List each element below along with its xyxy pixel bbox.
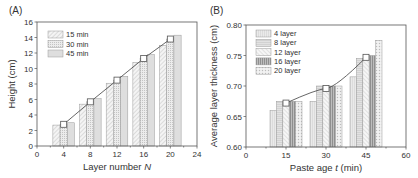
bar	[276, 101, 282, 147]
legend-swatch	[48, 50, 63, 57]
legend-label: 20 layer	[274, 66, 301, 75]
bar	[350, 77, 356, 147]
bar	[140, 58, 147, 146]
x-tick-label: 4	[61, 150, 66, 159]
bar	[270, 110, 276, 147]
y-tick-label: 10	[24, 65, 33, 74]
line-marker	[363, 54, 369, 60]
x-tick-label: 8	[88, 150, 93, 159]
legend-label: 4 layer	[274, 29, 297, 38]
bar	[336, 86, 342, 147]
line-marker	[87, 99, 93, 105]
y-tick-label: 12	[24, 49, 33, 58]
bar	[67, 123, 74, 146]
x-tick-label: 15	[282, 151, 291, 160]
bar	[106, 83, 113, 146]
bar	[133, 62, 140, 146]
y-tick-label: 0.65	[226, 113, 242, 122]
y-tick-label: 2	[29, 127, 34, 136]
legend-label: 15 min	[66, 30, 89, 39]
y-tick-label: 0.80	[226, 21, 242, 30]
legend-swatch	[256, 39, 271, 46]
bar	[316, 86, 322, 147]
y-tick-label: 8	[29, 80, 34, 89]
bar	[174, 35, 181, 146]
bar	[160, 45, 167, 146]
bar	[329, 86, 335, 147]
x-tick-label: 45	[362, 151, 371, 160]
bar	[53, 125, 60, 146]
bar	[310, 101, 316, 147]
line-marker	[114, 77, 120, 83]
bar	[363, 59, 369, 147]
y-tick-label: 0.70	[226, 82, 242, 91]
legend-swatch	[256, 30, 271, 37]
legend-swatch	[256, 49, 271, 56]
bar	[356, 59, 362, 147]
y-tick-label: 0	[29, 142, 34, 151]
y-axis-label: Average layer thickness (cm)	[208, 25, 219, 147]
bar	[113, 80, 120, 146]
y-axis-label: Height (cm)	[6, 59, 17, 108]
legend-swatch	[256, 58, 271, 65]
panel-label: (A)	[9, 5, 22, 16]
chart-a: 048121620240246810121416Layer number NHe…	[6, 5, 202, 172]
bar	[87, 102, 94, 146]
legend-label: 30 min	[66, 40, 89, 49]
bar	[121, 76, 128, 146]
x-tick-label: 30	[322, 151, 331, 160]
legend-label: 12 layer	[274, 48, 301, 57]
y-tick-label: 4	[29, 111, 34, 120]
bar	[289, 101, 295, 147]
x-tick-label: 24	[193, 150, 202, 159]
line-marker	[141, 55, 147, 61]
legend-label: 45 min	[66, 49, 89, 58]
y-tick-label: 0.75	[226, 52, 242, 61]
legend-swatch	[48, 31, 63, 38]
x-tick-label: 0	[244, 151, 249, 160]
bar	[323, 86, 329, 147]
bar	[94, 99, 101, 146]
line-marker	[167, 36, 173, 42]
bar	[296, 101, 302, 147]
panel-label: (B)	[210, 5, 223, 16]
bar	[369, 56, 375, 148]
legend-swatch	[48, 41, 63, 48]
bar	[147, 55, 154, 146]
bar	[167, 39, 174, 146]
legend-label: 16 layer	[274, 57, 301, 66]
figure: 048121620240246810121416Layer number NHe…	[0, 0, 418, 178]
x-tick-label: 20	[166, 150, 175, 159]
chart-b: 0153045600.600.650.700.750.80Paste age t…	[208, 5, 411, 173]
line-marker	[323, 85, 329, 91]
bar	[283, 101, 289, 147]
line-marker	[61, 121, 67, 127]
x-axis-label: Layer number N	[83, 161, 151, 172]
y-tick-label: 14	[24, 34, 33, 43]
y-tick-label: 0.60	[226, 143, 242, 152]
legend-swatch	[256, 67, 271, 74]
x-tick-label: 16	[139, 150, 148, 159]
y-tick-label: 16	[24, 18, 33, 27]
x-tick-label: 60	[402, 151, 411, 160]
x-tick-label: 12	[113, 150, 122, 159]
bar	[376, 40, 382, 147]
legend-label: 8 layer	[274, 38, 297, 47]
x-tick-label: 0	[35, 150, 40, 159]
x-axis-label: Paste age t (min)	[290, 162, 362, 173]
y-tick-label: 6	[29, 96, 34, 105]
line-marker	[283, 100, 289, 106]
